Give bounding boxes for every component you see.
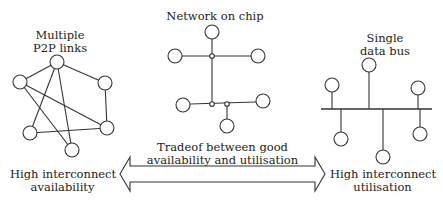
noc-network: [168, 25, 270, 133]
noc-node: [205, 25, 219, 39]
bus-node: [376, 150, 390, 164]
noc-node: [256, 94, 270, 108]
noc-node: [251, 49, 265, 63]
noc-router: [210, 102, 215, 107]
p2p-node: [23, 126, 37, 140]
bus-title: Single data bus: [345, 32, 425, 58]
left-end-label: High interconnect availability: [10, 168, 115, 194]
tradeoff-line2: availability and utilisation: [140, 154, 305, 167]
p2p-node: [100, 121, 114, 135]
p2p-node: [13, 75, 27, 89]
right-end-line2: utilisation: [330, 181, 435, 194]
noc-router: [225, 102, 230, 107]
bus-title-line2: data bus: [345, 45, 425, 58]
p2p-title: Multiple P2P links: [20, 29, 100, 55]
bus-node: [411, 81, 425, 95]
bus-node: [362, 58, 376, 72]
noc-node: [168, 49, 182, 63]
bus-network: [321, 58, 432, 164]
p2p-node: [65, 143, 79, 157]
p2p-title-line2: P2P links: [20, 42, 100, 55]
noc-node: [176, 98, 190, 112]
bus-node: [325, 78, 339, 92]
bus-node: [413, 127, 427, 141]
p2p-network: [13, 55, 114, 157]
p2p-node: [50, 55, 64, 69]
bus-node: [334, 132, 348, 146]
noc-node: [220, 119, 234, 133]
left-end-line2: availability: [10, 181, 115, 194]
tradeoff-label: Tradeof between good availability and ut…: [140, 141, 305, 167]
noc-title: Network on chip: [160, 10, 270, 23]
right-end-label: High interconnect utilisation: [330, 168, 435, 194]
p2p-node: [98, 76, 112, 90]
noc-router: [210, 54, 215, 59]
